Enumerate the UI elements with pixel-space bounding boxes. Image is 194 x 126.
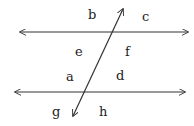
label-b: b xyxy=(88,7,96,22)
label-a: a xyxy=(66,69,74,84)
label-e: e xyxy=(75,44,83,59)
label-d: d xyxy=(116,68,124,83)
label-g: g xyxy=(52,104,60,119)
label-f: f xyxy=(125,44,131,59)
label-h: h xyxy=(99,104,108,119)
label-c: c xyxy=(142,9,149,24)
transversal-line xyxy=(73,9,123,116)
diagram-canvas: b c e f a d g h xyxy=(0,0,194,126)
